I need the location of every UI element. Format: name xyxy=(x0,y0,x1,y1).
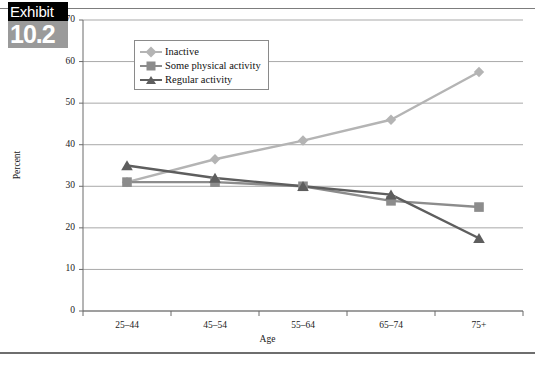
legend-label-regular-activity: Regular activity xyxy=(165,73,232,86)
legend-item-inactive: Inactive xyxy=(140,44,261,58)
exhibit-word: Exhibit xyxy=(8,2,68,21)
y-axis-tick-label: 20 xyxy=(43,222,75,232)
y-axis-tick-label: 40 xyxy=(43,139,75,149)
data-point-marker xyxy=(386,115,396,125)
data-point-marker xyxy=(473,233,485,243)
x-axis-tick-label: 45–54 xyxy=(175,320,255,330)
x-axis-tick-label: 65–74 xyxy=(351,320,431,330)
y-axis-tick-label: 30 xyxy=(43,180,75,190)
data-point-marker xyxy=(474,67,484,77)
legend-item-some-physical-activity: Some physical activity xyxy=(140,58,261,72)
data-point-marker xyxy=(210,154,220,164)
data-point-marker xyxy=(474,202,484,212)
legend-marker-diamond-icon xyxy=(140,45,162,58)
legend-marker-triangle-icon xyxy=(140,73,162,86)
legend-item-regular-activity: Regular activity xyxy=(140,72,261,86)
y-axis-tick-label: 0 xyxy=(43,305,75,315)
legend-label-inactive: Inactive xyxy=(165,45,199,58)
data-point-marker xyxy=(122,177,132,187)
data-point-marker xyxy=(298,135,308,145)
legend-marker-square-icon xyxy=(140,59,162,72)
x-axis-tick-label: 75+ xyxy=(439,320,519,330)
y-axis-title: Percent xyxy=(12,135,22,195)
x-axis-title: Age xyxy=(0,334,535,344)
y-axis-tick-label: 10 xyxy=(43,263,75,273)
x-axis-tick-label: 55–64 xyxy=(263,320,343,330)
exhibit-number: 10.2 xyxy=(8,21,68,48)
y-axis-tick-label: 60 xyxy=(43,56,75,66)
y-axis-tick-label: 50 xyxy=(43,97,75,107)
chart-legend: Inactive Some physical activity Regular … xyxy=(134,40,269,90)
exhibit-badge: Exhibit 10.2 xyxy=(8,2,68,48)
legend-label-some-physical-activity: Some physical activity xyxy=(165,59,261,72)
x-axis-tick-label: 25–44 xyxy=(87,320,167,330)
